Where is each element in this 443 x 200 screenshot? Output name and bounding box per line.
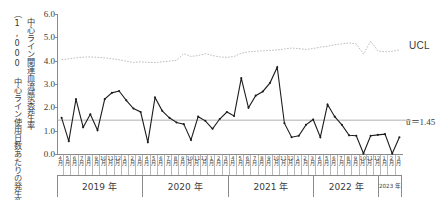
ucl-line [62,41,400,62]
month-kanji: 月 [382,161,387,166]
month-kanji: 月 [173,161,178,166]
month-kanji: 月 [187,161,192,166]
month-tick: 7月 [251,155,258,175]
data-point [255,95,257,97]
month-tick: 8月 [86,155,93,175]
month-tick: 6月 [244,155,251,175]
data-point [341,124,343,126]
year-label: 2019 年 [57,175,143,197]
data-point [334,116,336,118]
month-tick: 6月 [331,155,338,175]
ucl-label: UCL [409,40,430,51]
month-kanji: 月 [72,161,77,166]
data-point [190,139,192,141]
month-kanji: 月 [144,161,149,166]
y-axis-title-line1: 中心ライン関連血流感染発生率 [21,18,34,188]
month-kanji: 月 [288,161,293,166]
data-point [61,117,63,119]
month-kanji: 月 [137,161,142,166]
month-kanji: 月 [202,161,207,166]
month-kanji: 月 [367,161,372,166]
month-kanji: 月 [194,161,199,166]
data-point [226,111,228,113]
data-point [161,110,163,112]
mean-label: ū＝1.45 [406,115,435,128]
month-kanji: 月 [346,161,351,166]
data-point [111,92,113,94]
month-kanji: 月 [65,161,70,166]
month-tick: 7月 [165,155,172,175]
month-kanji: 月 [108,161,113,166]
month-tick: 7月 [338,155,345,175]
data-point [319,136,321,138]
data-point [118,90,120,92]
month-kanji: 月 [252,161,257,166]
month-kanji: 月 [180,161,185,166]
data-point [89,113,91,115]
data-point [132,107,134,109]
data-point [82,126,84,128]
year-label: 2022 年 [314,175,379,197]
data-point [176,121,178,123]
month-kanji: 月 [223,161,228,166]
month-tick: 9月 [179,155,186,175]
month-tick: 2月 [388,155,395,175]
month-tick: 2月 [215,155,222,175]
month-kanji: 月 [166,161,171,166]
data-point [283,122,285,124]
year-label: 2021 年 [229,175,315,197]
data-point [377,134,379,136]
month-tick: 1月 [381,155,388,175]
month-kanji: 月 [396,161,401,166]
month-tick: 1月 [122,155,129,175]
month-kanji: 月 [86,161,91,166]
month-tick: 10月 [187,155,194,175]
month-tick: 5月 [237,155,244,175]
data-point [219,118,221,120]
month-tick: 2月 [302,155,309,175]
data-line [62,67,400,153]
month-kanji: 月 [259,161,264,166]
data-point [247,107,249,109]
month-kanji: 月 [101,161,106,166]
month-kanji: 月 [216,161,221,166]
month-tick: 12月 [115,155,122,175]
month-kanji: 月 [58,161,63,166]
month-kanji: 月 [238,161,243,166]
month-tick: 11月 [194,155,201,175]
year-label: 2020 年 [143,175,229,197]
y-axis-title-line2: （1,000 中心ライン使用日数あたりの発生件数） [8,10,21,180]
data-point [276,66,278,68]
data-point [183,123,185,125]
month-kanji: 月 [331,161,336,166]
data-point [370,135,372,137]
month-kanji: 月 [281,161,286,166]
month-kanji: 月 [295,161,300,166]
month-kanji: 月 [324,161,329,166]
month-tick: 10月 [100,155,107,175]
data-point [75,98,77,100]
data-point [147,141,149,143]
data-point [262,90,264,92]
month-tick: 9月 [93,155,100,175]
month-tick: 11月 [367,155,374,175]
data-point [104,98,106,100]
month-tick: 9月 [266,155,273,175]
data-point [154,96,156,98]
data-point [291,136,293,138]
month-tick: 3月 [136,155,143,175]
data-point [233,115,235,117]
data-point [240,77,242,79]
data-point [312,118,314,120]
month-tick: 12月 [201,155,208,175]
chart-root: 中心ライン関連血流感染発生率 （1,000 中心ライン使用日数あたりの発生件数）… [0,0,443,200]
year-strip: 2019 年2020 年2021 年2022 年2023 年 [57,175,402,197]
month-kanji: 月 [151,161,156,166]
month-kanji: 月 [310,161,315,166]
month-tick: 2月 [129,155,136,175]
month-tick: 12月 [288,155,295,175]
month-kanji: 月 [115,161,120,166]
month-kanji: 月 [339,161,344,166]
month-tick: 3月 [396,155,402,175]
month-tick: 5月 [64,155,71,175]
